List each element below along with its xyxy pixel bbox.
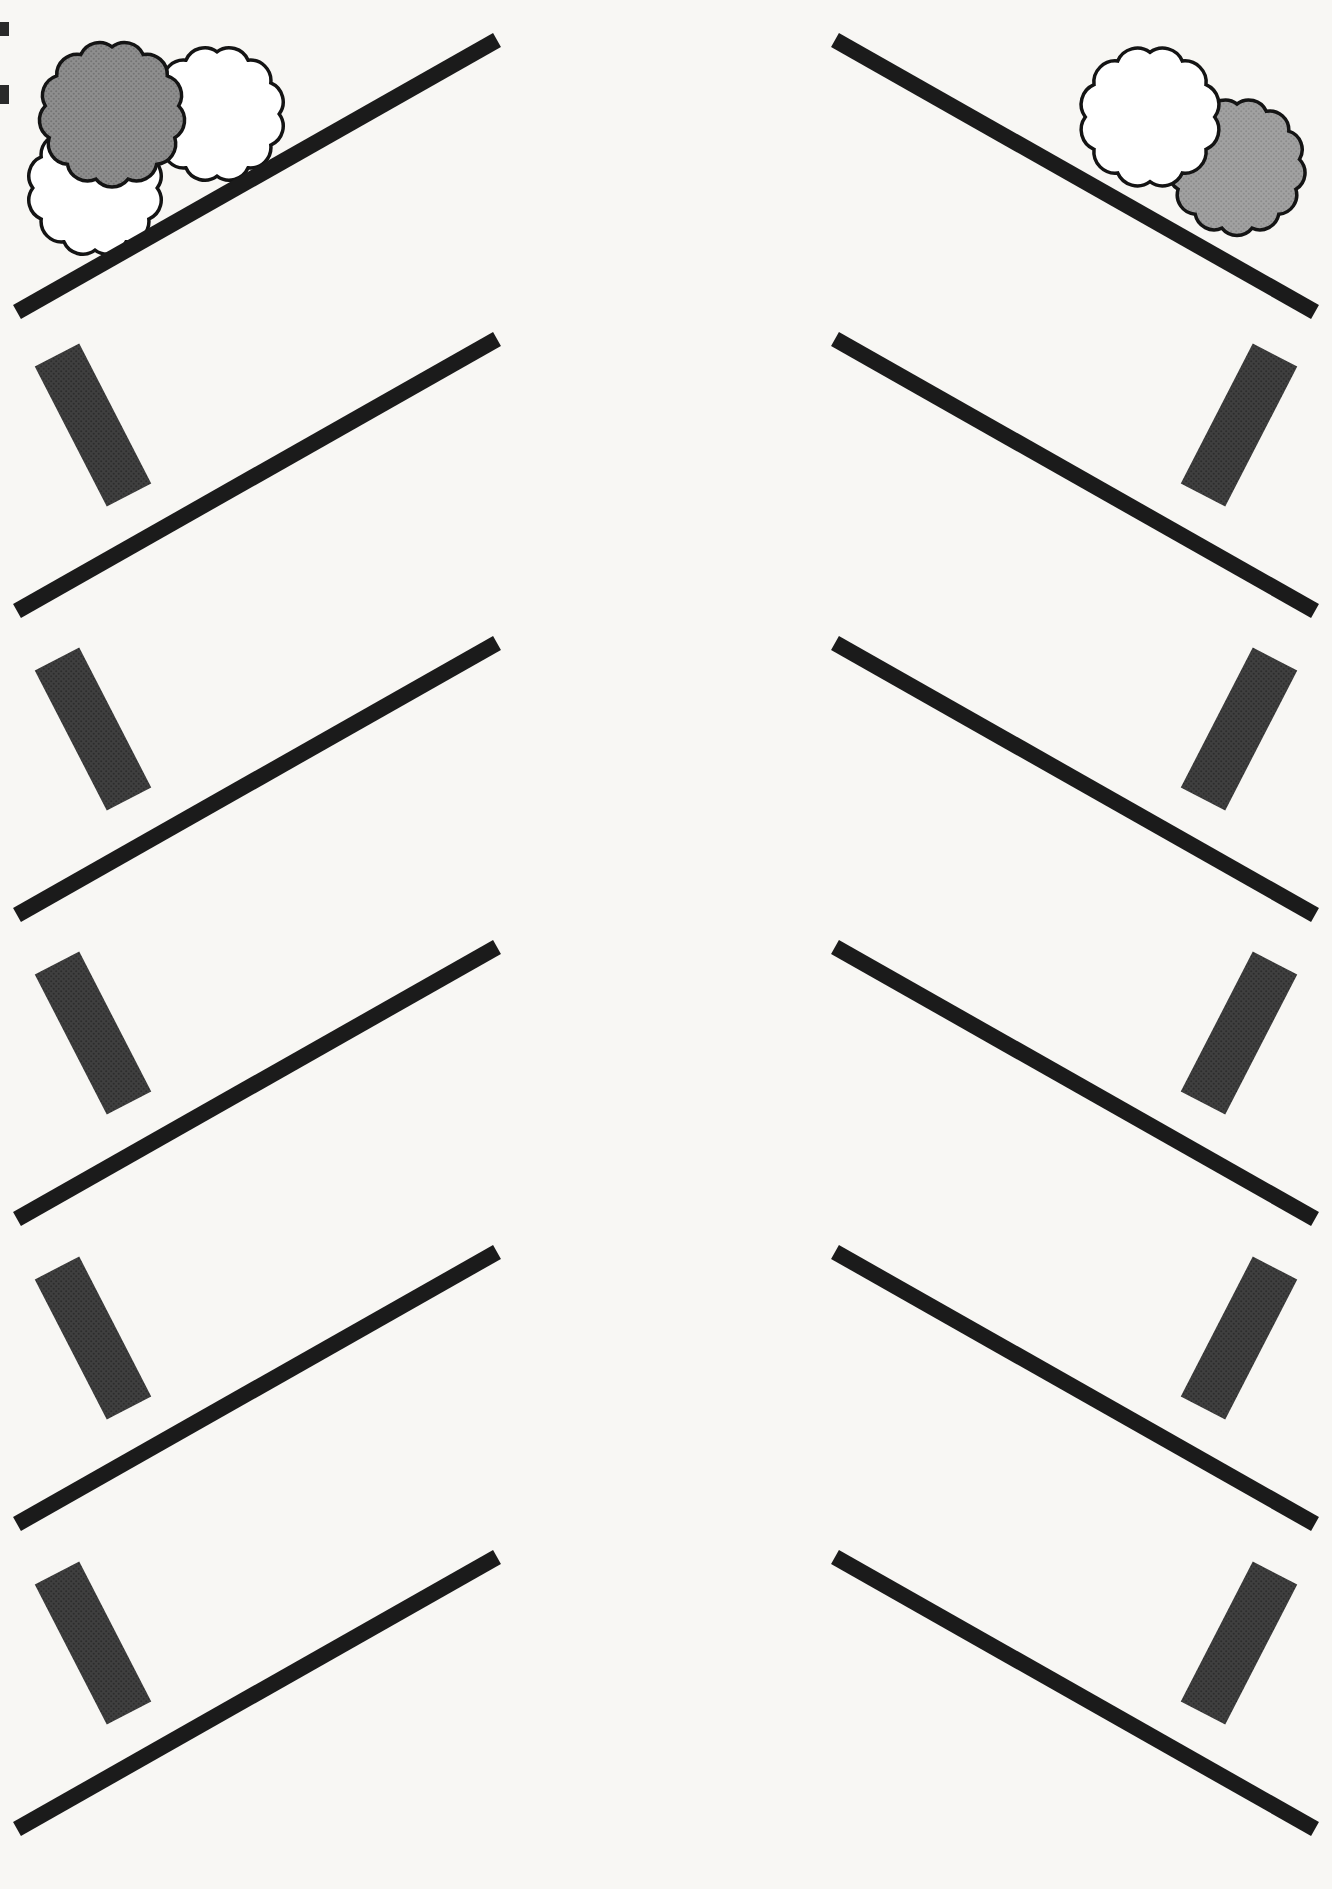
worksheet-page [0,0,1332,1889]
starter-bar-right-row5 [1203,1268,1275,1408]
right-white-cloud [1081,48,1219,186]
starter-bar-left-row2 [57,355,129,495]
scan-speck-2 [0,85,9,104]
worksheet-figure [0,0,1332,1889]
starter-bar-right-row6 [1203,1573,1275,1713]
starter-bar-left-row3 [57,659,129,799]
starter-bar-right-row4 [1203,963,1275,1103]
starter-bar-right-row3 [1203,659,1275,799]
starter-bar-left-row6 [57,1573,129,1713]
starter-bar-right-row2 [1203,355,1275,495]
starter-bar-left-row5 [57,1268,129,1408]
starter-bar-left-row4 [57,963,129,1103]
scan-speck-1 [0,22,9,36]
